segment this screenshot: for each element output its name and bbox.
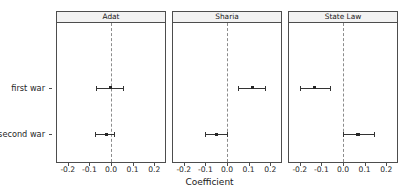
x-axis-tick-label: -0.2 <box>60 166 75 174</box>
error-bar-cap <box>227 132 228 137</box>
coefficient-plot-figure: first warsecond war AdatShariaState Law … <box>0 0 419 196</box>
facet-panel: Sharia <box>172 11 282 163</box>
facet-strip: Sharia <box>172 11 282 23</box>
x-axis-tick-label: 0.1 <box>359 166 371 174</box>
x-axis: -0.2-0.10.00.10.2 <box>173 163 281 181</box>
zero-reference-line <box>343 23 344 162</box>
x-axis-tick-label: 0.1 <box>243 166 255 174</box>
error-bar-cap <box>96 86 97 91</box>
x-axis: -0.2-0.10.00.10.2 <box>57 163 165 181</box>
zero-reference-line <box>227 23 228 162</box>
facet-strip-label: State Law <box>325 13 362 20</box>
x-axis-tick-label: 0.0 <box>221 166 233 174</box>
estimate-point <box>251 86 254 89</box>
error-bar-cap <box>238 86 239 91</box>
x-axis-tick-label: 0.2 <box>380 166 392 174</box>
facet-strip-label: Sharia <box>215 13 239 20</box>
y-axis-tick-label: second war <box>0 130 45 138</box>
x-axis-tick-label: -0.1 <box>198 166 213 174</box>
estimate-point <box>313 86 316 89</box>
error-bar-cap <box>374 132 375 137</box>
facet-plot-area <box>288 23 398 163</box>
facet-strip: State Law <box>288 11 398 23</box>
y-axis: first warsecond war <box>0 0 52 196</box>
facet-plot-area <box>56 23 166 163</box>
error-bar-cap <box>330 86 331 91</box>
estimate-point <box>215 133 218 136</box>
error-bar-cap <box>265 86 266 91</box>
y-axis-tick-mark <box>49 88 52 89</box>
x-axis-tick-label: 0.0 <box>105 166 117 174</box>
error-bar-cap <box>123 86 124 91</box>
estimate-point <box>109 86 112 89</box>
y-axis-tick-mark <box>49 134 52 135</box>
estimate-point <box>356 133 359 136</box>
y-axis-tick-label: first war <box>11 84 45 92</box>
x-axis-tick-label: -0.1 <box>314 166 329 174</box>
x-axis-tick-label: 0.2 <box>264 166 276 174</box>
x-axis-tick-label: 0.1 <box>127 166 139 174</box>
x-axis-tick-label: -0.2 <box>292 166 307 174</box>
x-axis-tick-label: 0.0 <box>337 166 349 174</box>
facet-panel: Adat <box>56 11 166 163</box>
facet-panel: State Law <box>288 11 398 163</box>
facet-strip-label: Adat <box>102 13 119 20</box>
estimate-point <box>105 133 108 136</box>
zero-reference-line <box>111 23 112 162</box>
facet-strip: Adat <box>56 11 166 23</box>
error-bar-cap <box>114 132 115 137</box>
error-bar-cap <box>343 132 344 137</box>
x-axis-tick-label: -0.1 <box>82 166 97 174</box>
error-bar-cap <box>205 132 206 137</box>
x-axis: -0.2-0.10.00.10.2 <box>289 163 397 181</box>
error-bar-cap <box>95 132 96 137</box>
x-axis-tick-label: -0.2 <box>176 166 191 174</box>
error-bar-cap <box>300 86 301 91</box>
facet-plot-area <box>172 23 282 163</box>
x-axis-tick-label: 0.2 <box>148 166 160 174</box>
